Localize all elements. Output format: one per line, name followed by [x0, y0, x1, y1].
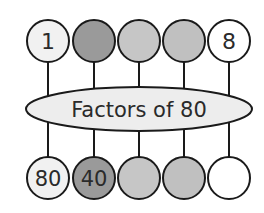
- bottom-row: 80 40: [27, 157, 250, 199]
- ellipse-title: Factors of 80: [71, 98, 207, 122]
- top-label-5: 8: [222, 29, 236, 54]
- top-circle-2: [73, 20, 115, 62]
- factors-diagram: 1 8 Factors of 80 80 40: [0, 0, 264, 213]
- top-row: 1 8: [27, 20, 250, 62]
- bottom-circle-5: [208, 157, 250, 199]
- bottom-circle-4: [163, 157, 205, 199]
- factors-ellipse: Factors of 80: [26, 87, 252, 131]
- top-circle-3: [118, 20, 160, 62]
- top-circle-4: [163, 20, 205, 62]
- bottom-label-2: 40: [81, 167, 108, 191]
- top-label-1: 1: [41, 29, 55, 54]
- bottom-circle-3: [118, 157, 160, 199]
- bottom-label-1: 80: [35, 167, 62, 191]
